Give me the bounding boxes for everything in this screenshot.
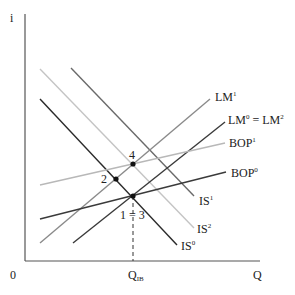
point-4 bbox=[130, 161, 135, 166]
point-1-3-label: 1 = 3 bbox=[120, 208, 145, 222]
lm1-label: LM1 bbox=[215, 90, 237, 104]
point-2 bbox=[113, 176, 118, 181]
x-axis-label: Q bbox=[253, 268, 262, 282]
origin-label: 0 bbox=[10, 268, 16, 282]
is0-curve bbox=[40, 99, 177, 245]
y-axis-label: i bbox=[10, 11, 14, 25]
is-lm-bop-diagram: i 0 Q QIB 1 = 3 2 4 LM1 LM0 = LM2 BOP1 B… bbox=[0, 0, 295, 295]
q-ib-label: QIB bbox=[128, 268, 144, 283]
point-4-label: 4 bbox=[129, 148, 135, 162]
is0-label: IS0 bbox=[181, 239, 196, 253]
point-2-label: 2 bbox=[101, 172, 107, 186]
point-1-3 bbox=[130, 193, 135, 198]
is2-curve bbox=[40, 69, 194, 228]
is2-label: IS2 bbox=[197, 222, 212, 236]
is1-curve bbox=[71, 68, 194, 196]
is1-label: IS1 bbox=[199, 194, 214, 208]
lm0-lm2-label: LM0 = LM2 bbox=[228, 113, 284, 127]
bop0-label: BOP0 bbox=[231, 166, 258, 180]
bop1-label: BOP1 bbox=[229, 136, 256, 150]
